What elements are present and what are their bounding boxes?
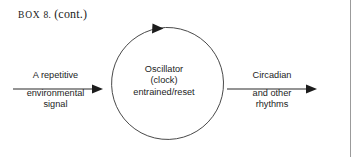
- page-title: BOX 8. (cont.): [18, 7, 87, 22]
- output-bottom-line-1: and other: [226, 88, 318, 99]
- input-bottom-line-2: signal: [8, 99, 103, 110]
- output-top-label: Circadian: [226, 70, 318, 81]
- oscillator-label: Oscillator (clock) entrained/reset: [104, 64, 224, 98]
- output-bottom-line-2: rhythms: [226, 99, 318, 110]
- page-title-number: 8.: [44, 10, 52, 20]
- box-figure: BOX 8. (cont.) Oscillator (clock) entrai…: [0, 0, 361, 157]
- output-bottom-label: and other rhythms: [226, 88, 318, 111]
- oscillator-line-1: Oscillator: [104, 64, 224, 75]
- input-top-label: A repetitive: [8, 70, 103, 81]
- page-title-cont: (cont.): [54, 7, 87, 21]
- input-bottom-line-1: environmental: [8, 88, 103, 99]
- output-rhythms-group: Circadian and other rhythms: [226, 70, 336, 118]
- page-title-box-word: BOX: [18, 10, 40, 20]
- input-signal-group: A repetitive environmental signal: [8, 70, 108, 118]
- oscillator-line-3: entrained/reset: [104, 87, 224, 98]
- oscillator-line-2: (clock): [104, 75, 224, 86]
- page-divider: [350, 0, 351, 157]
- input-bottom-label: environmental signal: [8, 88, 103, 111]
